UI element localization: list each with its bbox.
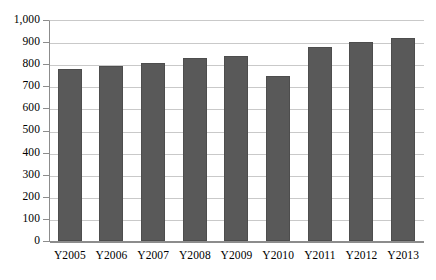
x-axis-label-5: Y2010 [257, 249, 299, 261]
bar-slot-6 [299, 20, 341, 241]
bar-Y2009[interactable] [224, 56, 248, 241]
y-axis-label-500: 500 [0, 124, 40, 136]
bar-Y2007[interactable] [141, 63, 165, 241]
y-axis-label-700: 700 [0, 80, 40, 92]
x-axis-label-7: Y2012 [341, 249, 383, 261]
x-axis-label-1: Y2006 [91, 249, 133, 261]
bar-Y2013[interactable] [391, 38, 415, 241]
y-axis-label-0: 0 [0, 235, 40, 247]
bar-Y2006[interactable] [99, 66, 123, 241]
bar-slot-8 [382, 20, 424, 241]
y-axis-label-400: 400 [0, 147, 40, 159]
y-axis-label-800: 800 [0, 58, 40, 70]
bar-slot-0 [49, 20, 91, 241]
x-axis-label-3: Y2008 [174, 249, 216, 261]
y-axis-label-600: 600 [0, 102, 40, 114]
bar-Y2005[interactable] [58, 69, 82, 241]
x-axis-label-2: Y2007 [132, 249, 174, 261]
x-axis-label-4: Y2009 [216, 249, 258, 261]
bar-Y2010[interactable] [266, 76, 290, 241]
y-axis-label-100: 100 [0, 213, 40, 225]
gridline-0-axis [50, 241, 424, 243]
x-axis-label-8: Y2013 [382, 249, 424, 261]
bar-slot-7 [341, 20, 383, 241]
x-axis-label-6: Y2011 [299, 249, 341, 261]
bar-slot-3 [174, 20, 216, 241]
bar-Y2011[interactable] [308, 47, 332, 241]
bar-slot-5 [257, 20, 299, 241]
y-axis-label-300: 300 [0, 169, 40, 181]
bar-Y2012[interactable] [349, 42, 373, 241]
y-axis-label-1000: 1,000 [0, 14, 40, 26]
bar-Y2008[interactable] [183, 58, 207, 241]
y-axis-label-200: 200 [0, 191, 40, 203]
bar-chart: 1,000 900 800 700 600 500 400 300 200 10… [0, 0, 436, 280]
bars-layer [49, 20, 424, 241]
y-axis-tick-0 [43, 241, 50, 242]
bar-slot-4 [216, 20, 258, 241]
bar-slot-2 [132, 20, 174, 241]
x-axis-label-0: Y2005 [49, 249, 91, 261]
y-axis-label-900: 900 [0, 36, 40, 48]
bar-slot-1 [91, 20, 133, 241]
